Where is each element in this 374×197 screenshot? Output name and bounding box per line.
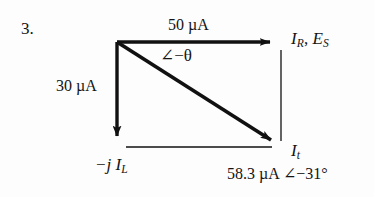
label-es-symbol: E (312, 29, 322, 48)
label-it-subscript: t (297, 149, 300, 162)
label-it-symbol: I (291, 141, 297, 160)
label-il-subscript: L (121, 163, 128, 176)
label-total-current-value: 58.3 µA ∠−31° (227, 166, 328, 182)
label-inductive-axis: −j IL (95, 156, 128, 176)
vector-it-arrow (117, 42, 271, 140)
label-resistive-axis: IR, ES (291, 30, 329, 50)
label-ir-symbol: I (291, 29, 297, 48)
label-horizontal-magnitude: 50 µA (168, 17, 209, 33)
label-angle-theta: ∠−θ (160, 47, 192, 64)
item-number: 3. (21, 20, 34, 37)
label-es-subscript: S (323, 37, 329, 50)
label-jil-prefix: −j (95, 155, 115, 174)
label-vertical-magnitude: 30 µA (56, 78, 97, 94)
phasor-diagram: 3. 50 µA ∠−θ 30 µA IR, ES −j IL It 58.3 … (0, 0, 374, 197)
label-ir-subscript: R (297, 37, 304, 50)
label-total-current: It (291, 142, 300, 162)
